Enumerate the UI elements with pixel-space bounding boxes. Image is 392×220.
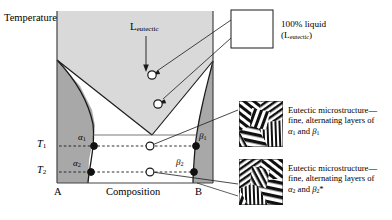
eutectic-callout-1-text: Eutectic microstructure— fine, alternati…: [288, 105, 377, 137]
eutectic-callout-2-text: Eutectic microstructure— fine, alternati…: [288, 163, 377, 195]
beta2-label: β2: [176, 157, 184, 168]
eutectic-callout-1-line3: α1 and β1: [288, 126, 377, 137]
marker-beta1: [193, 143, 200, 150]
liquid-callout-line2-suffix: ): [309, 30, 312, 40]
marker-liquid-upper: [148, 71, 156, 79]
x-axis-endpoint-b: B: [195, 186, 202, 198]
liquid-eutectic-subscript: eutectic: [136, 25, 158, 33]
beta2-subscript: 2: [180, 161, 183, 167]
y-tick-t1: T1: [37, 138, 46, 150]
leader-bottom-guide: [197, 183, 238, 196]
liquid-callout-line2-prefix: (L: [281, 30, 290, 40]
marker-alpha1: [91, 143, 98, 150]
x-axis-title: Composition: [106, 186, 160, 198]
marker-eutectic-t2: [146, 168, 154, 176]
x-axis-endpoint-a: A: [54, 186, 62, 198]
eutectic-callout-1-line1: Eutectic microstructure—: [288, 105, 377, 115]
eutectic-callout-2-suffix: *: [319, 184, 323, 194]
liquid-callout-line2: (Leutectic): [281, 30, 326, 41]
eutectic-swatch-box-2: [239, 159, 283, 205]
eutectic-callout-2-line3: α2 and β2*: [288, 184, 377, 195]
eutectic-callout-1-line2: fine, alternating layers of: [288, 115, 377, 125]
marker-liquid-lower: [154, 100, 162, 108]
liquid-callout-line2-sub: eutectic: [290, 33, 309, 40]
beta1-label: β1: [199, 131, 207, 142]
eutectic-callout-2-line1: Eutectic microstructure—: [288, 163, 377, 173]
liquid-callout-text: 100% liquid (Leutectic): [281, 19, 326, 41]
callout-swatches: [231, 10, 283, 205]
eutectic-phase-diagram-figure: Temperature Composition A B T1 T2 Leutec…: [0, 0, 392, 220]
alpha1-label: α1: [78, 132, 86, 143]
marker-alpha2: [88, 169, 95, 176]
liquid-callout-line1: 100% liquid: [281, 19, 326, 30]
eutectic-swatch-box-1: [239, 101, 283, 147]
eutectic-callout-2-line2: fine, alternating layers of: [288, 173, 377, 183]
eutectic-callout-1-conjunction: and: [295, 126, 312, 136]
y-axis-title: Temperature: [4, 12, 57, 24]
alpha2-label: α2: [73, 158, 81, 169]
eutectic-callout-2-conjunction: and: [295, 184, 312, 194]
marker-eutectic-t1: [146, 142, 154, 150]
beta1-subscript: 1: [203, 135, 206, 141]
y-tick-t2: T2: [37, 164, 46, 176]
alpha2-subscript: 2: [78, 162, 81, 168]
liquid-swatch-box: [231, 10, 273, 48]
alpha1-subscript: 1: [83, 136, 86, 142]
liquid-eutectic-label: Leutectic: [130, 21, 159, 33]
y-tick-t1-subscript: 1: [43, 142, 47, 150]
y-tick-t2-subscript: 2: [43, 168, 47, 176]
marker-beta2: [191, 169, 198, 176]
eutectic-callout-1-beta-sub: 1: [316, 130, 319, 136]
